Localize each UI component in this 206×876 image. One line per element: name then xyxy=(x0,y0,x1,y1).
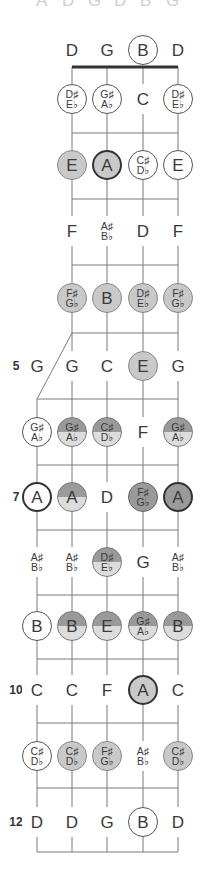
note-marker: C♯D♭ xyxy=(57,741,87,771)
banjo-fretboard-diagram: ADGDBG 571012DGBDD♯E♭G♯A♭CD♯E♭EAC♯D♭EFA♯… xyxy=(0,0,206,876)
note-marker: E xyxy=(128,351,158,381)
note-marker: C♯D♭ xyxy=(92,417,122,447)
note-marker: G♯A♭ xyxy=(128,611,158,641)
note-marker: F xyxy=(57,216,87,246)
note-marker: D xyxy=(22,807,52,837)
note-marker: F♯G♭ xyxy=(163,283,193,313)
note-marker: A♯B♭ xyxy=(128,741,158,771)
note-marker: D♯E♭ xyxy=(92,547,122,577)
fret-number-label: 12 xyxy=(9,815,22,829)
note-marker: C xyxy=(22,675,52,705)
note-marker: A xyxy=(163,482,193,512)
fret-number-label: 7 xyxy=(13,490,20,504)
note-marker: G xyxy=(92,807,122,837)
note-marker: D xyxy=(128,216,158,246)
note-marker: B xyxy=(57,611,87,641)
note-marker: D xyxy=(163,35,193,65)
note-marker: G xyxy=(57,351,87,381)
note-marker: G♯A♭ xyxy=(163,417,193,447)
note-marker: D♯E♭ xyxy=(163,84,193,114)
note-marker: G♯A♭ xyxy=(92,84,122,114)
note-marker: G xyxy=(128,547,158,577)
note-marker: A♯B♭ xyxy=(22,547,52,577)
note-marker: B xyxy=(92,283,122,313)
note-marker: B xyxy=(163,611,193,641)
note-marker: A xyxy=(92,150,122,180)
note-marker: F♯G♭ xyxy=(92,741,122,771)
note-marker: D xyxy=(163,807,193,837)
note-marker: G♯A♭ xyxy=(57,417,87,447)
note-marker: G xyxy=(92,35,122,65)
note-marker: A xyxy=(128,675,158,705)
note-marker: C♯D♭ xyxy=(22,741,52,771)
note-marker: B xyxy=(22,611,52,641)
note-marker: C xyxy=(92,351,122,381)
note-marker: G xyxy=(163,351,193,381)
fret-number-label: 5 xyxy=(13,359,20,373)
note-marker: C xyxy=(57,675,87,705)
note-marker: C♯D♭ xyxy=(163,741,193,771)
note-marker: D xyxy=(57,807,87,837)
note-marker: F xyxy=(163,216,193,246)
fret-number-label: 10 xyxy=(9,683,22,697)
note-marker: A xyxy=(22,482,52,512)
note-marker: A♯B♭ xyxy=(57,547,87,577)
note-marker: D xyxy=(92,482,122,512)
note-marker: D♯E♭ xyxy=(128,283,158,313)
note-marker: A xyxy=(57,482,87,512)
note-marker: F xyxy=(128,417,158,447)
note-marker: B xyxy=(128,35,158,65)
note-marker: A♯B♭ xyxy=(92,216,122,246)
note-marker: F♯G♭ xyxy=(128,482,158,512)
note-marker: B xyxy=(128,807,158,837)
note-marker: D xyxy=(57,35,87,65)
note-marker: G♯A♭ xyxy=(22,417,52,447)
note-marker: F xyxy=(92,675,122,705)
note-marker: F♯G♭ xyxy=(57,283,87,313)
note-marker: C xyxy=(163,675,193,705)
note-marker: E xyxy=(163,150,193,180)
note-marker: C♯D♭ xyxy=(128,150,158,180)
note-marker: G xyxy=(22,351,52,381)
note-marker: C xyxy=(128,84,158,114)
note-marker: E xyxy=(57,150,87,180)
note-marker: A♯B♭ xyxy=(163,547,193,577)
note-marker: E xyxy=(92,611,122,641)
note-marker: D♯E♭ xyxy=(57,84,87,114)
